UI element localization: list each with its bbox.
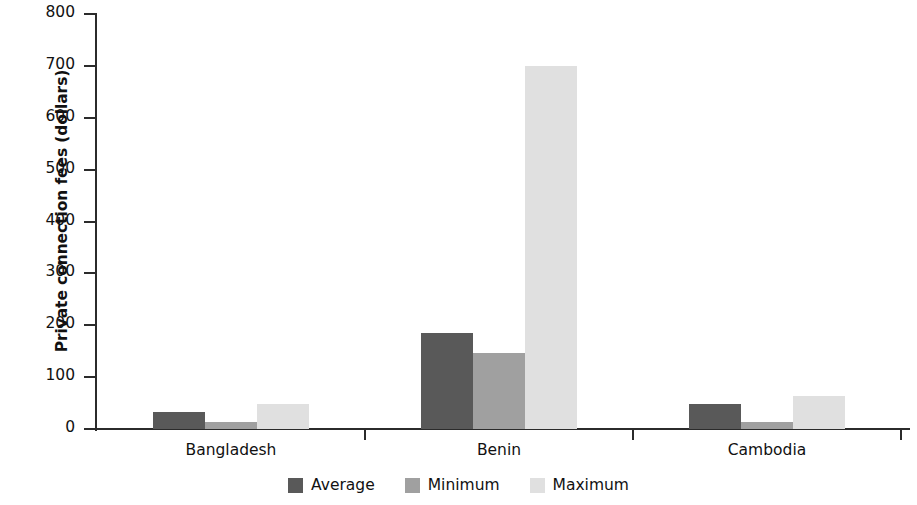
y-axis-tick-label: 100: [19, 368, 75, 384]
bar-benin-minimum: [473, 353, 525, 429]
y-axis-tick-label: 200: [19, 316, 75, 332]
legend-swatch-icon: [288, 478, 303, 493]
legend-label: Average: [311, 478, 375, 494]
y-axis-tick: [84, 221, 97, 223]
bar-cambodia-maximum: [793, 396, 845, 429]
bar-benin-maximum: [525, 66, 577, 429]
legend-swatch-icon: [405, 478, 420, 493]
y-axis-tick: [84, 376, 97, 378]
x-axis-category-label: Bangladesh: [131, 441, 331, 459]
y-axis-tick: [84, 324, 97, 326]
y-axis-tick: [84, 13, 97, 15]
bar-bangladesh-minimum: [205, 422, 257, 429]
legend-item-minimum: Minimum: [405, 478, 500, 494]
bar-chart: Private connection fees (dollars) 010020…: [0, 0, 917, 505]
y-axis-tick: [84, 428, 97, 430]
x-axis-tick: [364, 430, 366, 440]
y-axis-tick-label: 800: [19, 5, 75, 21]
y-axis-tick: [84, 272, 97, 274]
chart-legend: AverageMinimumMaximum: [0, 478, 917, 494]
legend-label: Maximum: [553, 478, 629, 494]
bar-benin-average: [421, 333, 473, 429]
y-axis-tick-label: 300: [19, 264, 75, 280]
legend-label: Minimum: [428, 478, 500, 494]
y-axis-tick: [84, 169, 97, 171]
bar-cambodia-minimum: [741, 422, 793, 429]
y-axis-tick-label: 400: [19, 213, 75, 229]
y-axis-tick: [84, 65, 97, 67]
legend-item-maximum: Maximum: [530, 478, 629, 494]
x-axis-tick: [632, 430, 634, 440]
x-axis-tick: [900, 430, 902, 440]
legend-swatch-icon: [530, 478, 545, 493]
y-axis-tick: [84, 117, 97, 119]
x-axis-category-label: Benin: [399, 441, 599, 459]
y-axis-tick-label: 700: [19, 57, 75, 73]
y-axis-tick-label: 600: [19, 109, 75, 125]
bar-bangladesh-average: [153, 412, 205, 429]
bar-cambodia-average: [689, 404, 741, 429]
y-axis-tick-label: 500: [19, 161, 75, 177]
y-axis-tick-label: 0: [19, 420, 75, 436]
x-axis-category-label: Cambodia: [667, 441, 867, 459]
legend-item-average: Average: [288, 478, 375, 494]
bar-bangladesh-maximum: [257, 404, 309, 429]
